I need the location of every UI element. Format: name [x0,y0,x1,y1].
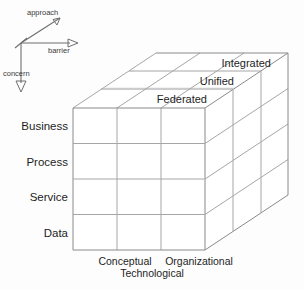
layer-label-integrated: Integrated [221,57,271,69]
layer-label-unified: Unified [200,75,234,87]
cube-body [73,53,288,250]
row-label-process: Process [26,156,68,168]
row-label-business: Business [21,120,68,132]
cube-diagram-svg: approach barrier concern [0,0,304,289]
figure-root: approach barrier concern [0,0,304,289]
column-labels: Conceptual Technological Organizational [98,255,232,279]
axis-label-concern: concern [3,69,30,78]
layer-label-federated: Federated [157,93,207,105]
axis-triad: approach barrier concern [3,8,78,92]
row-label-service: Service [30,191,68,203]
column-label-technological: Technological [120,267,184,279]
column-label-organizational: Organizational [165,255,233,267]
column-label-conceptual: Conceptual [98,255,151,267]
row-labels: Business Process Service Data [21,120,68,239]
row-label-data: Data [44,227,69,239]
axis-label-approach: approach [27,8,58,17]
axis-label-barrier: barrier [48,46,70,55]
